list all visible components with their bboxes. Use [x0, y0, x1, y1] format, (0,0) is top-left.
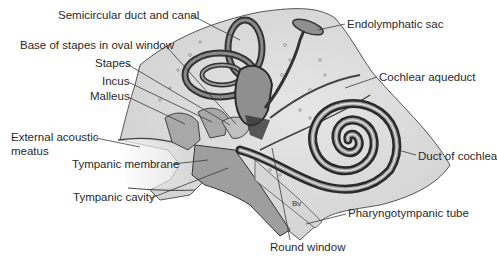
label-external-acoustic: External acoustic: [11, 131, 99, 144]
label-stapes: Stapes: [95, 57, 131, 70]
label-endolymphatic-sac: Endolymphatic sac: [347, 18, 444, 31]
label-pharyngotympanic-tube: Pharyngotympanic tube: [348, 207, 469, 220]
label-tympanic-membrane: Tympanic membrane: [72, 158, 179, 171]
label-incus: Incus: [102, 75, 130, 88]
label-duct-of-cochlea: Duct of cochlea: [418, 150, 497, 163]
label-base-of-stapes: Base of stapes in oval window: [20, 39, 174, 52]
annotation-bv: Bv: [292, 199, 301, 208]
label-tympanic-cavity: Tympanic cavity: [73, 191, 155, 204]
label-malleus: Malleus: [90, 90, 130, 103]
label-semicircular-duct: Semicircular duct and canal: [58, 9, 199, 22]
label-cochlear-aqueduct: Cochlear aqueduct: [379, 71, 476, 84]
label-meatus: meatus: [11, 145, 49, 158]
label-round-window: Round window: [270, 241, 345, 254]
